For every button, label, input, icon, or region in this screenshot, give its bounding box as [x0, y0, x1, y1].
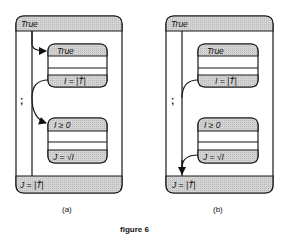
sequence-symbol: ;	[171, 95, 174, 106]
panel-label: (a)	[62, 205, 72, 214]
outer-footer-label: J = |T̂|	[171, 180, 196, 190]
state-header-label: I ≥ 0	[54, 120, 71, 130]
state-footer-label: J = √I	[202, 152, 225, 162]
figure-caption: figure 6	[120, 225, 149, 234]
panel-b: True J = |T̂| ; True I = |T̂| I ≥ 0 J = …	[166, 16, 273, 214]
sequence-symbol: ;	[20, 95, 23, 106]
state-header-label: True	[57, 46, 74, 56]
state-header-label: True	[207, 46, 224, 56]
outer-header-label: True	[171, 19, 188, 29]
outer-footer-label: J = |T̂|	[19, 180, 44, 190]
state-header-label: I ≥ 0	[204, 120, 221, 130]
state-1: True I = |T̂|	[48, 44, 107, 87]
state-footer-label: J = √I	[52, 152, 75, 162]
state-1: True I = |T̂|	[198, 44, 258, 87]
state-2: I ≥ 0 J = √I	[198, 118, 258, 163]
state-footer-label: I = |T̂|	[64, 76, 86, 86]
state-footer-label: I = |T̂|	[215, 76, 237, 86]
panel-label: (b)	[213, 205, 223, 214]
state-2: I ≥ 0 J = √I	[48, 118, 107, 163]
panel-a: True J = |T̂| ; True I = |T̂| I ≥ 0 J = …	[16, 16, 122, 214]
figure-canvas: True J = |T̂| ; True I = |T̂| I ≥ 0 J = …	[0, 0, 285, 238]
outer-header-label: True	[21, 19, 38, 29]
